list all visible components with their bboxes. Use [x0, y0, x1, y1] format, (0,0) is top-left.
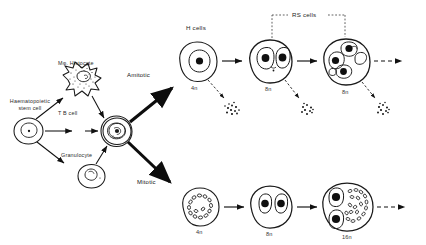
label-histocyte: Mφ. Histocyte: [58, 60, 94, 67]
amitotic-stage-3-cell: [324, 39, 370, 85]
amitotic-apoptotic-cluster-3: [362, 82, 390, 115]
ploidy-amitotic-2: 8n: [265, 86, 272, 93]
ploidy-mitotic-3: 16n: [342, 234, 352, 241]
label-stem-cell-line2: stem cell: [18, 105, 41, 111]
diagram-canvas: [0, 0, 426, 245]
pathway-arrow-amitotic: [130, 88, 172, 122]
label-amitotic: Amitotic: [127, 72, 150, 79]
cell-haematopoietic-stem: [14, 118, 43, 144]
label-rs-cells: RS cells: [292, 11, 316, 18]
amitotic-stage-1-cell: [180, 42, 217, 82]
amitotic-apoptotic-cluster-1: [208, 80, 240, 115]
label-tb-cell: T B cell: [58, 110, 77, 117]
label-h-cells: H cells: [186, 24, 206, 31]
label-mitotic: Mitotic: [137, 179, 156, 186]
mitotic-stage-3-cell: [323, 183, 373, 231]
cell-histocyte: [63, 62, 101, 96]
amitotic-apoptotic-cluster-2: [285, 80, 314, 115]
ploidy-mitotic-1: 4n: [196, 229, 203, 236]
label-stem-cell-line1: Haematopoietic: [10, 98, 50, 104]
pathway-arrow-mitotic: [128, 142, 170, 182]
cell-precursor: [101, 116, 132, 147]
ploidy-mitotic-2: 8n: [266, 231, 273, 238]
mitotic-stage-1-cell: [183, 188, 219, 226]
cell-lineage-figure: Haematopoietic stem cell Mφ. Histocyte T…: [0, 0, 426, 245]
label-haematopoietic-stem-cell: Haematopoietic stem cell: [2, 98, 58, 112]
ploidy-amitotic-3: 8n: [342, 89, 349, 96]
cell-granulocyte: [78, 165, 105, 189]
label-granulocyte: Granulocyte: [61, 152, 92, 159]
ploidy-amitotic-1: 4n: [191, 85, 198, 92]
amitotic-stage-2-cell: [250, 40, 292, 83]
rs-cells-bracket: [272, 15, 345, 38]
mitotic-stage-2-cell: [251, 186, 292, 228]
